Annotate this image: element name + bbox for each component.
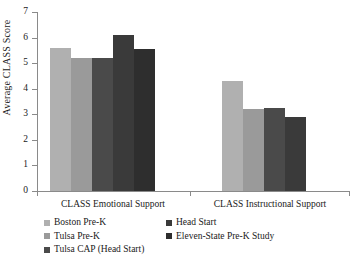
legend-label: Head Start [176, 216, 216, 230]
x-axis-tick [349, 191, 350, 196]
legend-item: Tulsa Pre-K [44, 230, 144, 244]
y-axis-tick-label: 5 [0, 58, 28, 68]
bar [71, 58, 92, 191]
bar [113, 35, 134, 191]
bar [285, 117, 306, 191]
bar [264, 108, 285, 191]
y-axis-tick-label: 7 [0, 7, 28, 17]
legend-item: Boston Pre-K [44, 216, 144, 230]
legend-swatch-icon [44, 247, 50, 253]
bar [134, 49, 155, 191]
bar [222, 81, 243, 191]
y-axis-tick-label: 3 [0, 109, 28, 119]
y-axis-tick-label: 4 [0, 84, 28, 94]
legend-item: Eleven-State Pre-K Study [166, 230, 274, 244]
legend-swatch-icon [166, 233, 172, 239]
y-axis-title: Average CLASS Score [1, 0, 12, 153]
bar-chart: Average CLASS Score 01234567 CLASS Emoti… [0, 0, 355, 257]
y-axis-tick-label: 0 [0, 186, 28, 196]
legend-swatch-icon [44, 233, 50, 239]
legend-column-right: Head StartEleven-State Pre-K Study [166, 216, 274, 243]
y-axis-tick-label: 1 [0, 160, 28, 170]
legend-swatch-icon [44, 220, 50, 226]
x-axis-line [37, 191, 349, 192]
y-axis-tick-label: 2 [0, 135, 28, 145]
bar-series-layer [37, 12, 349, 191]
legend-item: Tulsa CAP (Head Start) [44, 243, 144, 257]
legend-label: Eleven-State Pre-K Study [176, 230, 274, 244]
bar [243, 109, 264, 191]
legend-label: Boston Pre-K [54, 216, 106, 230]
legend-column-left: Boston Pre-KTulsa Pre-KTulsa CAP (Head S… [44, 216, 144, 257]
legend-label: Tulsa CAP (Head Start) [54, 243, 144, 257]
bar [92, 58, 113, 191]
x-axis-tick [37, 191, 38, 196]
legend-label: Tulsa Pre-K [54, 230, 100, 244]
x-axis-category-label: CLASS Emotional Support [23, 199, 203, 209]
x-axis-tick [190, 191, 191, 196]
legend-swatch-icon [166, 220, 172, 226]
x-axis-category-label: CLASS Instructional Support [180, 199, 355, 209]
y-axis-tick-label: 6 [0, 33, 28, 43]
bar [50, 48, 71, 191]
legend-item: Head Start [166, 216, 274, 230]
